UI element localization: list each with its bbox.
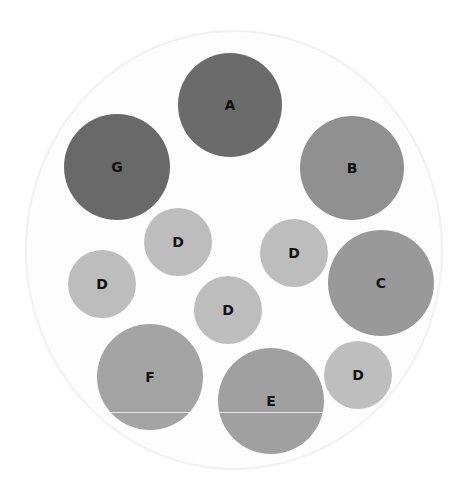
- bubble-b: B: [300, 116, 404, 220]
- bubble-label: G: [111, 160, 123, 174]
- bubble-d-5: D: [324, 341, 392, 409]
- bubble-label: A: [225, 98, 236, 112]
- bubble-label: F: [145, 370, 155, 384]
- artifact-line: [110, 412, 323, 413]
- bubble-label: B: [347, 161, 358, 175]
- bubble-f: F: [97, 324, 203, 430]
- bubble-label: D: [172, 235, 184, 249]
- bubble-d-2: D: [260, 219, 328, 287]
- bubble-label: D: [222, 303, 234, 317]
- bubble-a: A: [178, 53, 282, 157]
- bubble-label: D: [96, 277, 108, 291]
- bubble-d-3: D: [68, 250, 136, 318]
- bubble-label: C: [376, 276, 386, 290]
- bubble-label: D: [288, 246, 300, 260]
- bubble-e: E: [218, 348, 324, 454]
- bubble-d-4: D: [194, 276, 262, 344]
- bubble-diagram: A G B D D C D D D F E: [0, 0, 466, 488]
- bubble-label: E: [266, 394, 276, 408]
- bubble-label: D: [352, 368, 364, 382]
- bubble-d-1: D: [144, 208, 212, 276]
- bubble-c: C: [328, 230, 434, 336]
- bubble-g: G: [64, 114, 170, 220]
